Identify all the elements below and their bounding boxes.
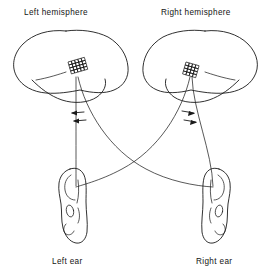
right-temporal-lobe-outline xyxy=(165,79,239,102)
right-ear-concha xyxy=(214,204,224,217)
left-ear-lobe-crease xyxy=(64,224,74,235)
right-ear-helix xyxy=(214,175,224,200)
left-temporal-lobe-outline xyxy=(32,79,106,102)
right-ear-outline xyxy=(202,168,231,243)
left-arrow-group xyxy=(71,111,86,124)
left-hemisphere-outline xyxy=(14,30,129,93)
left-ear-group xyxy=(59,168,88,243)
arrow-left-lower-icon xyxy=(73,119,86,124)
right-ear-lobe-crease xyxy=(215,224,225,235)
right-ear-antihelix xyxy=(210,180,212,203)
left-ear-antihelix xyxy=(77,180,79,203)
left-ear-helix xyxy=(65,175,75,200)
left-auditory-cortex-patch xyxy=(68,57,88,74)
right-auditory-cortex-patch xyxy=(183,62,199,78)
arrow-right-upper-icon xyxy=(182,111,195,116)
label-left-ear: Left ear xyxy=(52,258,83,266)
label-right-ear: Right ear xyxy=(196,258,232,266)
right-ear-tragus xyxy=(210,208,212,223)
left-sylvian-fissure xyxy=(36,72,66,80)
arrow-right-lower-icon xyxy=(184,120,197,125)
right-arrow-group xyxy=(182,111,197,125)
figure-drawing xyxy=(0,0,271,276)
arrow-left-upper-icon xyxy=(71,111,84,116)
right-hemisphere-group xyxy=(143,30,258,102)
auditory-pathway-figure: Left hemisphere Right hemisphere Left ea… xyxy=(0,0,271,276)
label-right-hemisphere: Right hemisphere xyxy=(161,9,231,17)
left-ear-outline xyxy=(59,168,88,243)
right-ear-group xyxy=(202,168,231,243)
left-ear-concha xyxy=(65,204,75,217)
right-hemisphere-outline xyxy=(143,30,258,93)
auditory-pathways-group xyxy=(76,77,213,187)
left-hemisphere-group xyxy=(14,30,129,102)
pathway-left-cortex-to-right-ear xyxy=(78,77,213,187)
left-ear-tragus xyxy=(78,208,80,223)
pathway-right-cortex-to-left-ear xyxy=(76,77,190,187)
label-left-hemisphere: Left hemisphere xyxy=(24,9,88,17)
right-sylvian-fissure xyxy=(205,72,235,80)
